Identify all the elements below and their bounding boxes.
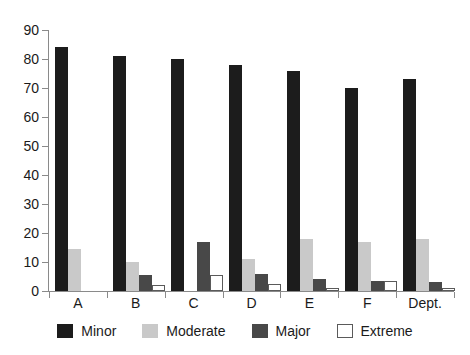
bar-major: [139, 275, 152, 291]
bar-moderate: [358, 242, 371, 291]
bar-extreme: [384, 281, 397, 291]
bar-group: [107, 30, 165, 291]
y-axis-tick-mark: [42, 117, 48, 118]
chart-legend: MinorModerateMajorExtreme: [0, 324, 470, 338]
bar-major: [429, 282, 442, 291]
legend-label: Minor: [81, 324, 116, 338]
y-axis-tick-label: 30: [23, 197, 39, 211]
y-axis-tick-mark: [42, 88, 48, 89]
category-label: B: [107, 296, 165, 310]
y-axis-tick-mark: [42, 262, 48, 263]
bar-moderate: [68, 249, 81, 291]
y-axis-tick-label: 50: [23, 139, 39, 153]
category-label: C: [165, 296, 223, 310]
bar-chart: 0102030405060708090 ABCDEFDept. MinorMod…: [0, 0, 470, 355]
y-axis-tick-mark: [42, 175, 48, 176]
category-label: A: [49, 296, 107, 310]
bar-group: [165, 30, 223, 291]
bar-moderate: [300, 239, 313, 291]
bar-minor: [55, 47, 68, 291]
y-axis-tick-label: 60: [23, 110, 39, 124]
bar-extreme: [442, 288, 455, 291]
y-axis-tick-mark: [42, 30, 48, 31]
category-label: Dept.: [396, 296, 454, 310]
category-label: E: [280, 296, 338, 310]
legend-label: Major: [276, 324, 311, 338]
bar-minor: [113, 56, 126, 291]
y-axis-tick-mark: [42, 291, 48, 292]
y-axis-tick-mark: [42, 59, 48, 60]
bar-group: [223, 30, 281, 291]
legend-label: Moderate: [166, 324, 225, 338]
legend-item-moderate: Moderate: [142, 324, 225, 338]
category-label: D: [223, 296, 281, 310]
bar-extreme: [268, 284, 281, 291]
plot-area: 0102030405060708090: [48, 22, 456, 299]
bar-groups: [49, 30, 454, 291]
bar-minor: [287, 71, 300, 291]
bar-minor: [345, 88, 358, 291]
y-axis-tick-mark: [42, 204, 48, 205]
x-axis-tick-mark: [454, 292, 455, 298]
bar-moderate: [126, 262, 139, 291]
legend-swatch-minor: [57, 324, 73, 338]
legend-item-extreme: Extreme: [337, 324, 413, 338]
legend-item-major: Major: [252, 324, 311, 338]
bar-group: [281, 30, 339, 291]
bar-minor: [229, 65, 242, 291]
bar-major: [371, 281, 384, 291]
legend-swatch-extreme: [337, 324, 353, 338]
bar-major: [313, 279, 326, 291]
bar-extreme: [152, 285, 165, 291]
y-axis-tick-label: 20: [23, 226, 39, 240]
bar-group: [49, 30, 107, 291]
bar-major: [255, 274, 268, 291]
y-axis-tick-label: 70: [23, 81, 39, 95]
legend-label: Extreme: [361, 324, 413, 338]
bar-extreme: [326, 288, 339, 291]
legend-swatch-moderate: [142, 324, 158, 338]
y-axis-tick-mark: [42, 146, 48, 147]
y-axis-tick-label: 0: [31, 284, 39, 298]
bar-minor: [403, 79, 416, 291]
y-axis-tick-label: 10: [23, 255, 39, 269]
category-labels: ABCDEFDept.: [49, 296, 454, 310]
bar-moderate: [242, 259, 255, 291]
y-axis-tick-label: 90: [23, 23, 39, 37]
category-label: F: [338, 296, 396, 310]
bar-minor: [171, 59, 184, 291]
bar-group: [339, 30, 397, 291]
bar-moderate: [416, 239, 429, 291]
bar-major: [197, 242, 210, 291]
x-axis-line: [48, 291, 454, 292]
legend-item-minor: Minor: [57, 324, 116, 338]
bar-extreme: [210, 275, 223, 291]
y-axis-tick-mark: [42, 233, 48, 234]
legend-swatch-major: [252, 324, 268, 338]
y-axis-tick-label: 40: [23, 168, 39, 182]
bar-group: [397, 30, 455, 291]
y-axis-tick-label: 80: [23, 52, 39, 66]
